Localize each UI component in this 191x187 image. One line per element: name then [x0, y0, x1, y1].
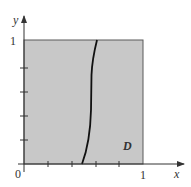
x-axis-label: x — [173, 167, 180, 181]
region-diagram: y 1 0 1 x D — [0, 0, 191, 187]
y-tick-label-1: 1 — [10, 34, 16, 48]
x-tick-label-1: 1 — [140, 168, 146, 182]
region-label: D — [122, 139, 132, 153]
y-axis-label: y — [12, 13, 19, 27]
origin-label: 0 — [15, 167, 21, 181]
